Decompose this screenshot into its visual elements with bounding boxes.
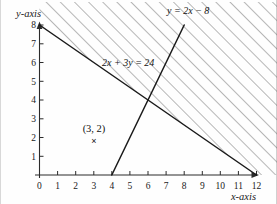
y-tick-labels: 1 2 3 4 5 6 7 8 — [31, 20, 36, 161]
x-axis-ticks — [58, 171, 257, 175]
x-tick-7: 7 — [164, 181, 169, 191]
x-tick-3: 3 — [91, 181, 96, 191]
y-tick-8: 8 — [31, 20, 36, 30]
y-tick-5: 5 — [31, 77, 36, 87]
y-tick-6: 6 — [31, 58, 36, 68]
x-tick-5: 5 — [128, 181, 133, 191]
x-axis — [35, 172, 259, 178]
point-marker-x: × — [91, 136, 96, 146]
y-tick-7: 7 — [31, 39, 36, 49]
line1-equation-label: 2x + 3y = 24 — [102, 57, 154, 68]
coordinate-graph: 1 2 3 4 5 6 7 8 0 1 2 3 4 5 6 7 8 9 10 1… — [1, 0, 277, 204]
y-tick-2: 2 — [31, 133, 36, 143]
y-axis-title: y-axis — [15, 8, 41, 19]
x-tick-11: 11 — [234, 181, 243, 191]
y-tick-4: 4 — [31, 95, 36, 105]
x-tick-labels: 0 1 2 3 4 5 6 7 8 9 10 11 12 — [37, 181, 261, 191]
y-axis-ticks — [40, 25, 44, 156]
x-tick-12: 12 — [252, 181, 262, 191]
point-label: (3, 2) — [83, 123, 106, 135]
line2-equation-label: y = 2x − 8 — [166, 5, 209, 16]
x-tick-1: 1 — [55, 181, 60, 191]
x-axis-title: x-axis — [230, 191, 256, 202]
x-tick-0: 0 — [37, 181, 42, 191]
x-tick-4: 4 — [109, 181, 114, 191]
x-tick-8: 8 — [182, 181, 187, 191]
y-tick-1: 1 — [31, 152, 36, 162]
x-tick-10: 10 — [216, 181, 226, 191]
x-tick-9: 9 — [200, 181, 205, 191]
x-tick-6: 6 — [146, 181, 151, 191]
figure-frame: 1 2 3 4 5 6 7 8 0 1 2 3 4 5 6 7 8 9 10 1… — [0, 0, 277, 204]
y-tick-3: 3 — [31, 114, 36, 124]
x-tick-2: 2 — [73, 181, 78, 191]
hatched-region — [1, 0, 277, 204]
